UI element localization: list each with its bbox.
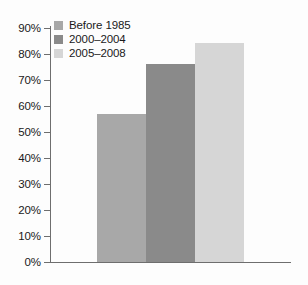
y-axis-label-90: 90% — [18, 22, 41, 34]
legend-swatch-icon — [54, 49, 63, 58]
y-axis-line — [50, 26, 51, 263]
y-axis-label-30: 30% — [18, 178, 41, 190]
y-axis-label-10: 10% — [18, 230, 41, 242]
y-axis-tick — [44, 132, 50, 133]
y-axis-tick — [44, 54, 50, 55]
y-axis-tick — [44, 80, 50, 81]
y-axis-tick — [44, 184, 50, 185]
legend-item-2005-2008: 2005–2008 — [54, 46, 131, 60]
y-axis-label-50: 50% — [18, 126, 41, 138]
legend-label: 2000–2004 — [69, 33, 126, 45]
y-axis-tick — [44, 262, 50, 263]
y-axis-tick — [44, 28, 50, 29]
legend-label: 2005–2008 — [69, 47, 126, 59]
y-axis-tick — [44, 210, 50, 211]
y-axis-tick — [44, 236, 50, 237]
bar-2000-2004 — [146, 64, 195, 262]
y-axis-tick — [44, 106, 50, 107]
y-axis-label-60: 60% — [18, 100, 41, 112]
y-axis-label-70: 70% — [18, 74, 41, 86]
y-axis-label-20: 20% — [18, 204, 41, 216]
legend-label: Before 1985 — [69, 19, 131, 31]
legend: Before 1985 2000–2004 2005–2008 — [54, 18, 131, 60]
legend-swatch-icon — [54, 21, 63, 30]
y-axis-tick — [44, 158, 50, 159]
bar-before-1985 — [97, 114, 146, 262]
bar-2005-2008 — [195, 43, 244, 262]
legend-item-2000-2004: 2000–2004 — [54, 32, 131, 46]
legend-item-before-1985: Before 1985 — [54, 18, 131, 32]
legend-swatch-icon — [54, 35, 63, 44]
y-axis-label-80: 80% — [18, 48, 41, 60]
bar-chart: 90% 80% 70% 60% 50% 40% 30% 20% 10% 0% B… — [0, 0, 308, 285]
y-axis-label-0: 0% — [25, 256, 41, 268]
y-axis-label-40: 40% — [18, 152, 41, 164]
x-axis-line — [50, 262, 291, 263]
